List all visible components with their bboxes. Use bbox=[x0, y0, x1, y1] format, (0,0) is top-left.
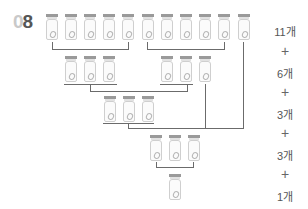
row-count-label: 3개 bbox=[270, 106, 300, 122]
plus-sign: + bbox=[270, 166, 300, 182]
row-count-label: 11개 bbox=[270, 23, 300, 39]
jar-icon bbox=[150, 135, 162, 161]
bracket-line bbox=[128, 42, 129, 49]
bracket-line bbox=[147, 49, 225, 50]
jar-icon bbox=[103, 56, 115, 82]
connector-line bbox=[243, 42, 244, 128]
connector-line bbox=[205, 84, 206, 128]
problem-number: 08 bbox=[13, 11, 32, 33]
jar-icon bbox=[65, 56, 77, 82]
bracket-line bbox=[128, 128, 244, 129]
jar-icon bbox=[103, 14, 115, 40]
jar-icon bbox=[180, 14, 192, 40]
plus-sign: + bbox=[270, 43, 300, 59]
row-count-label: 6개 bbox=[270, 65, 300, 81]
plus-sign: + bbox=[270, 84, 300, 100]
bracket-line bbox=[147, 42, 148, 49]
jar-icon bbox=[46, 14, 58, 40]
bracket-line bbox=[156, 167, 194, 168]
problem-number-digit: 8 bbox=[23, 11, 33, 32]
problem-number-prefix: 0 bbox=[13, 11, 23, 32]
bracket-line bbox=[193, 162, 194, 167]
bracket-line bbox=[90, 91, 188, 92]
jar-icon bbox=[188, 135, 200, 161]
jar-icon bbox=[84, 56, 96, 82]
jar-icon bbox=[122, 14, 134, 40]
jar-icon bbox=[142, 96, 154, 122]
jar-icon bbox=[142, 14, 154, 40]
jar-icon bbox=[161, 14, 173, 40]
jar-icon bbox=[84, 14, 96, 40]
jar-icon bbox=[218, 14, 230, 40]
jar-icon bbox=[104, 96, 116, 122]
bracket-line bbox=[52, 42, 53, 49]
jar-icon bbox=[238, 14, 250, 40]
bracket-line bbox=[224, 42, 225, 49]
bracket-line bbox=[160, 84, 193, 85]
row-count-label: 1개 bbox=[270, 188, 300, 204]
jar-icon bbox=[123, 96, 135, 122]
bracket-line bbox=[187, 84, 188, 91]
row-count-label: 3개 bbox=[270, 147, 300, 163]
jar-icon bbox=[199, 14, 211, 40]
jar-icon bbox=[65, 14, 77, 40]
jar-icon bbox=[169, 135, 181, 161]
plus-sign: + bbox=[270, 125, 300, 141]
jar-icon bbox=[161, 56, 173, 82]
jar-icon bbox=[169, 174, 181, 200]
bracket-line bbox=[90, 84, 91, 91]
jar-icon bbox=[180, 56, 192, 82]
jar-icon bbox=[199, 56, 211, 82]
bracket-line bbox=[52, 49, 129, 50]
